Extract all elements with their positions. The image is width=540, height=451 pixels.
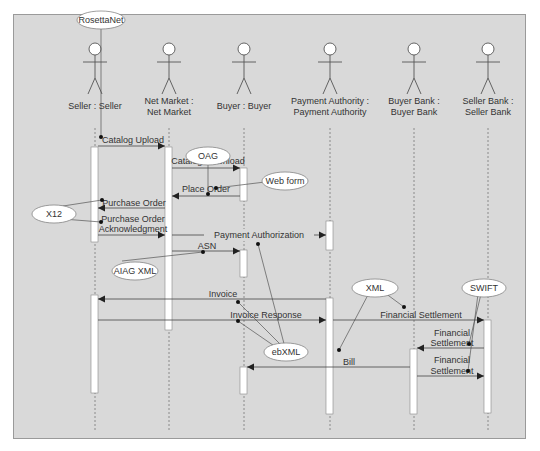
- actor-label-seller-bank: Seller Bank :: [462, 96, 513, 106]
- actor-label-buyer: Buyer : Buyer: [217, 101, 272, 111]
- message-place-order: Place Order: [182, 184, 230, 194]
- message-asn: ASN: [198, 241, 217, 251]
- actor-label-buyer-bank: Buyer Bank :: [388, 96, 440, 106]
- standard-label-rosettanet: RosettaNet: [78, 15, 124, 25]
- connector-dots: [99, 135, 471, 373]
- message-po-ack-2: Acknowledgment: [99, 224, 168, 234]
- message-financial-settlement: Financial Settlement: [380, 310, 462, 320]
- message-purchase-order: Purchase Order: [102, 198, 166, 208]
- actor-icon-payment-authority: [318, 43, 342, 94]
- actor-label-seller: Seller : Seller: [68, 101, 122, 111]
- standard-label-oag: OAG: [198, 151, 218, 161]
- actor-icon-buyer: [232, 43, 256, 94]
- actor-label-buyer-bank-2: Buyer Bank: [391, 107, 438, 117]
- actor-icon-seller: [83, 43, 107, 94]
- actor-label-payment-authority-2: Payment Authority: [293, 107, 367, 117]
- message-po-ack-1: Purchase Order: [101, 214, 165, 224]
- message-catalog-upload: Catalog Upload: [102, 135, 164, 145]
- standard-label-x12: X12: [46, 209, 62, 219]
- message-payment-authorization: Payment Authorization: [214, 230, 304, 240]
- message-bill: Bill: [343, 357, 355, 367]
- actor-icon-seller-bank: [476, 43, 500, 94]
- actor-icon-buyer-bank: [402, 43, 426, 94]
- standard-label-web-form: Web form: [266, 176, 305, 186]
- standard-label-ebxml: ebXML: [272, 347, 301, 357]
- actor-label-net-market: Net Market :: [144, 96, 193, 106]
- message-invoice: Invoice: [209, 289, 238, 299]
- actor-label-net-market-2: Net Market: [147, 107, 192, 117]
- standard-label-swift: SWIFT: [470, 283, 498, 293]
- message-financial-settlement-2a: Financial: [434, 328, 470, 338]
- sequence-diagram: Seller : Seller Net Market : Net Market …: [0, 0, 540, 451]
- actor-label-payment-authority: Payment Authority :: [291, 96, 369, 106]
- actor-icon-net-market: [157, 43, 181, 94]
- standard-label-aiag-xml: AIAG XML: [114, 266, 157, 276]
- actor-label-seller-bank-2: Seller Bank: [465, 107, 512, 117]
- message-invoice-response: Invoice Response: [230, 310, 302, 320]
- standard-label-xml: XML: [366, 283, 385, 293]
- message-financial-settlement-3a: Financial: [434, 355, 470, 365]
